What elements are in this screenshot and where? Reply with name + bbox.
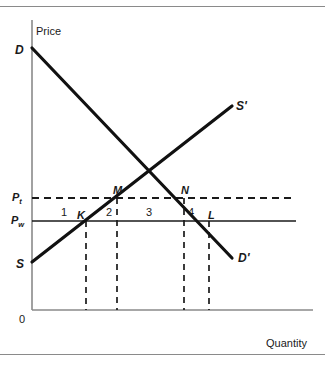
supply-curve-start-label: S	[16, 258, 24, 270]
price-label-pw: Pw	[11, 215, 24, 229]
region-label-1: 1	[61, 207, 67, 218]
point-label-n: N	[181, 185, 189, 196]
price-label-pt-sub: t	[19, 197, 22, 206]
y-axis-title: Price	[36, 26, 61, 37]
demand-curve-end-label: D'	[238, 252, 250, 264]
price-label-pw-sub: w	[18, 220, 24, 229]
region-label-3: 3	[146, 207, 152, 218]
region-label-2: 2	[106, 207, 112, 218]
supply-curve-end-label: S'	[236, 100, 247, 112]
origin-label: 0	[19, 314, 25, 325]
x-axis-title: Quantity	[266, 338, 307, 349]
region-label-4: 4	[188, 207, 194, 218]
point-label-m: M	[113, 185, 122, 196]
demand-curve	[32, 48, 232, 258]
demand-curve-start-label: D	[15, 44, 24, 56]
price-label-pt: Pt	[12, 192, 22, 206]
point-label-l: L	[208, 210, 215, 221]
point-label-k: K	[77, 210, 85, 221]
supply-curve	[32, 106, 232, 262]
supply-demand-plot	[0, 0, 325, 365]
tariff-supply-demand-figure: Price Quantity 0 D D' S S' Pt Pw K M N L…	[0, 0, 325, 365]
